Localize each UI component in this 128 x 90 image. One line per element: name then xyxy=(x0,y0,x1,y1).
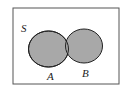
set-b-label: B xyxy=(82,67,89,79)
venn-diagram: S A B xyxy=(0,0,128,90)
set-a-label: A xyxy=(46,70,54,82)
universe-label: S xyxy=(21,22,27,34)
set-b-ellipse xyxy=(66,29,103,63)
